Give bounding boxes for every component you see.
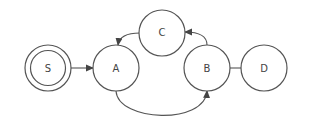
node-d-label: D [260, 63, 268, 74]
node-s-label: S [45, 63, 51, 74]
node-a: A [93, 45, 139, 91]
node-d: D [241, 45, 287, 91]
node-c: C [139, 10, 185, 56]
node-b-label: B [204, 63, 211, 74]
state-diagram: S A C B D [0, 0, 310, 129]
edge-a-to-b [116, 91, 207, 115]
edge-b-to-c [185, 32, 207, 45]
node-b: B [184, 45, 230, 91]
edge-c-to-a [118, 33, 140, 45]
node-c-label: C [159, 27, 166, 38]
node-a-label: A [113, 63, 120, 74]
node-s: S [25, 45, 71, 91]
